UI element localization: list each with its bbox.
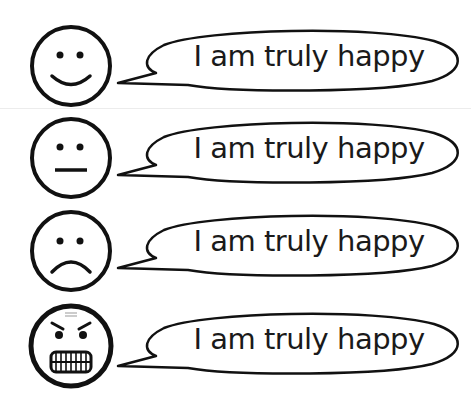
row-happy: I am truly happy <box>0 20 471 120</box>
speech-text: I am truly happy <box>174 224 444 258</box>
happy-face-icon <box>28 23 114 109</box>
speech-text: I am truly happy <box>174 322 444 356</box>
speech-bubble: I am truly happy <box>114 310 466 380</box>
sad-face-icon <box>28 208 114 294</box>
neutral-face-icon <box>28 115 114 201</box>
speech-text: I am truly happy <box>174 39 444 73</box>
row-neutral: I am truly happy <box>0 115 471 215</box>
speech-bubble: I am truly happy <box>114 119 466 189</box>
row-sad: I am truly happy <box>0 208 471 308</box>
row-angry: I am truly happy <box>0 300 471 400</box>
speech-bubble: I am truly happy <box>114 27 466 97</box>
speech-text: I am truly happy <box>174 131 444 165</box>
angry-face-icon <box>28 303 114 389</box>
speech-bubble: I am truly happy <box>114 212 466 282</box>
